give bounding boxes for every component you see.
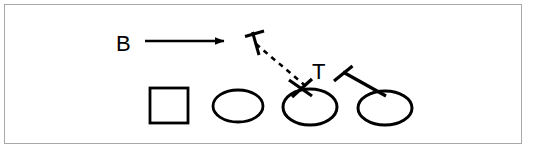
- diagram-canvas: B T: [0, 0, 533, 157]
- square-marker: [150, 88, 188, 123]
- dashed-trajectory-group: [256, 44, 308, 88]
- mallet-upper-left: [245, 31, 264, 55]
- figure-root: B T: [0, 0, 533, 157]
- dashed-trajectory-line: [256, 44, 308, 88]
- label-t: T: [312, 59, 325, 84]
- mallet-right-head: [334, 66, 353, 81]
- label-b: B: [116, 31, 131, 56]
- ellipse-marker-1: [213, 90, 263, 122]
